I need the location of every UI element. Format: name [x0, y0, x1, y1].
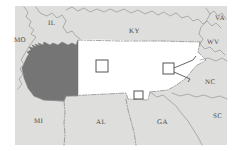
map-figure: MO IL KY VA WV NC SC GA AL MI: [0, 0, 241, 151]
map-canvas: [0, 0, 241, 151]
